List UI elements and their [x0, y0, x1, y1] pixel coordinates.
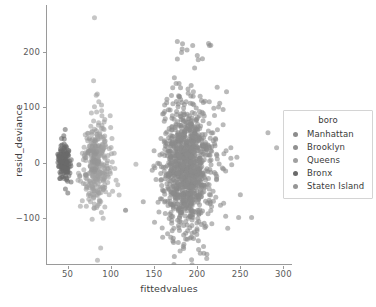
x-tick-label: 250	[232, 269, 249, 279]
y-tick-mark	[43, 52, 46, 53]
x-tick-label: 50	[62, 269, 73, 279]
x-tick-label: 100	[102, 269, 119, 279]
x-axis-label: fittedvalues	[46, 283, 292, 294]
legend-item-label: Manhattan	[307, 128, 354, 141]
legend-swatch-icon	[293, 171, 298, 176]
y-tick-mark	[43, 107, 46, 108]
x-tick-label: 200	[189, 269, 206, 279]
legend-item-queens: Queens	[289, 154, 367, 167]
y-tick-label: 0	[34, 158, 40, 168]
legend-item-manhattan: Manhattan	[289, 128, 367, 141]
y-tick-label: 100	[23, 102, 40, 112]
y-tick-mark	[43, 218, 46, 219]
legend-swatch-icon	[293, 132, 298, 137]
plot-area	[46, 5, 292, 265]
y-tick-label: −100	[16, 213, 40, 223]
legend-item-label: Queens	[307, 154, 340, 167]
legend-item-brooklyn: Brooklyn	[289, 141, 367, 154]
legend-item-label: Brooklyn	[307, 141, 345, 154]
y-tick-label: 200	[23, 47, 40, 57]
y-axis-label: resid_deviance	[13, 71, 24, 211]
legend-swatch-icon	[293, 158, 298, 163]
legend-item-staten-island: Staten Island	[289, 180, 367, 193]
legend-item-label: Staten Island	[307, 180, 364, 193]
scatter-points-canvas	[47, 5, 293, 265]
scatter-plot-figure: 50100150200250300 −1000100200 fittedvalu…	[0, 0, 376, 307]
legend-swatch-icon	[293, 184, 298, 189]
legend-title: boro	[289, 115, 367, 125]
x-tick-label: 150	[145, 269, 162, 279]
y-tick-mark	[43, 163, 46, 164]
legend-item-bronx: Bronx	[289, 167, 367, 180]
legend-swatch-icon	[293, 145, 298, 150]
legend: boro ManhattanBrooklynQueensBronxStaten …	[283, 110, 373, 199]
legend-entries: ManhattanBrooklynQueensBronxStaten Islan…	[289, 128, 367, 193]
legend-item-label: Bronx	[307, 167, 332, 180]
x-tick-label: 300	[275, 269, 292, 279]
